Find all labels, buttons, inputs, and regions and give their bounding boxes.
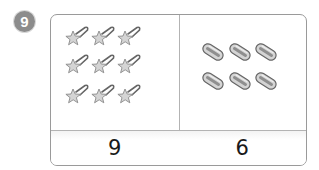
counting-card: 9 6 bbox=[50, 14, 307, 166]
answer-right: 6 bbox=[179, 131, 307, 165]
answer-left: 9 bbox=[51, 131, 179, 165]
star-hairclip-icon bbox=[116, 53, 142, 81]
question-number-badge: 9 bbox=[14, 11, 35, 32]
star-hairclip-icon bbox=[90, 53, 116, 81]
star-hairclip-icon bbox=[64, 83, 90, 111]
star-hairclip-icon bbox=[116, 25, 142, 53]
answer-row: 9 6 bbox=[51, 131, 306, 165]
capsule-bead-icon bbox=[200, 42, 226, 66]
capsule-bead-icon bbox=[253, 71, 279, 95]
star-hairclip-icon bbox=[64, 53, 90, 81]
capsule-bead-icon bbox=[253, 42, 279, 66]
capsule-bead-icon bbox=[200, 71, 226, 95]
star-hairclip-icon bbox=[116, 83, 142, 111]
capsule-bead-icon bbox=[227, 71, 253, 95]
star-hairclip-icon bbox=[64, 25, 90, 53]
star-hairclip-icon bbox=[90, 25, 116, 53]
star-hairclip-icon bbox=[90, 83, 116, 111]
capsule-bead-icon bbox=[227, 42, 253, 66]
